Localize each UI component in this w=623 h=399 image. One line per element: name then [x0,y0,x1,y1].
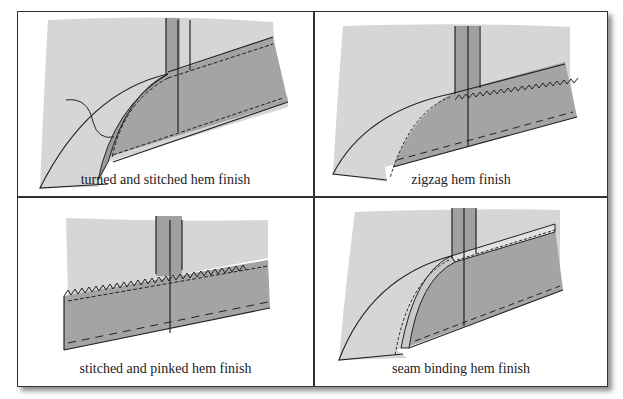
caption-seam-binding: seam binding hem finish [315,361,607,377]
caption-stitched-pinked: stitched and pinked hem finish [18,361,313,377]
seam-binding-illustration [315,198,607,386]
panel-turned-stitched: turned and stitched hem finish [18,12,313,196]
caption-zigzag: zigzag hem finish [315,172,607,188]
panel-zigzag: zigzag hem finish [315,12,607,196]
figure-frame: turned and stitched hem finish zigzag he… [17,11,608,387]
zigzag-illustration [315,12,607,196]
turned-stitched-illustration [18,12,313,196]
caption-turned-stitched: turned and stitched hem finish [18,172,313,188]
stitched-pinked-illustration [18,198,313,386]
panel-stitched-pinked: stitched and pinked hem finish [18,198,313,386]
panel-seam-binding: seam binding hem finish [315,198,607,386]
